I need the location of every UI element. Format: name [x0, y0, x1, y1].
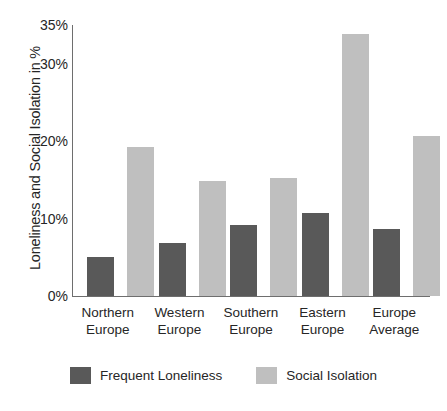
bar-western-europe-social-isolation: [199, 181, 226, 296]
bar-southern-europe-frequent-loneliness: [230, 225, 257, 296]
x-axis-label-europe-average: EuropeAverage: [358, 304, 430, 338]
x-axis-label-line-2: Europe: [287, 321, 359, 338]
bar-eastern-europe-frequent-loneliness: [302, 213, 329, 296]
legend-swatch-icon: [256, 367, 277, 384]
bar-europe-average-social-isolation: [413, 136, 440, 296]
bar-western-europe-frequent-loneliness: [159, 243, 186, 296]
chart-legend: Frequent LonelinessSocial Isolation: [0, 360, 447, 390]
y-axis-tick-0: 0%: [22, 288, 68, 304]
legend-swatch-icon: [70, 367, 91, 384]
bar-europe-average-frequent-loneliness: [373, 229, 400, 296]
y-axis-tick-10: 10%: [22, 211, 68, 227]
bar-chart: Loneliness and Social Isolation in % 0%1…: [0, 0, 447, 411]
x-axis-label-line-2: Europe: [144, 321, 216, 338]
x-axis-label-line-1: Northern: [82, 305, 135, 320]
x-axis-category-labels: NorthernEuropeWesternEuropeSouthernEurop…: [72, 304, 430, 348]
x-axis-label-eastern-europe: EasternEurope: [287, 304, 359, 338]
x-axis-label-line-2: Europe: [215, 321, 287, 338]
x-axis-label-line-2: Average: [358, 321, 430, 338]
x-axis-label-line-2: Europe: [72, 321, 144, 338]
legend-item-social-isolation[interactable]: Social Isolation: [256, 367, 377, 384]
bar-northern-europe-frequent-loneliness: [87, 257, 114, 296]
x-axis-label-line-1: Eastern: [299, 305, 346, 320]
x-axis-label-line-1: Europe: [372, 305, 416, 320]
x-axis-label-line-1: Southern: [224, 305, 279, 320]
bars-layer: [72, 25, 430, 296]
x-axis-label-western-europe: WesternEurope: [144, 304, 216, 338]
x-axis-line: [72, 296, 430, 297]
x-axis-label-northern-europe: NorthernEurope: [72, 304, 144, 338]
bar-northern-europe-social-isolation: [127, 147, 154, 296]
legend-label: Social Isolation: [286, 368, 377, 383]
plot-area: [72, 25, 430, 297]
y-axis-tick-20: 20%: [22, 133, 68, 149]
legend-item-frequent-loneliness[interactable]: Frequent Loneliness: [70, 367, 222, 384]
x-axis-label-line-1: Western: [154, 305, 204, 320]
legend-label: Frequent Loneliness: [100, 368, 222, 383]
y-axis-tick-labels: 0%10%20%30%35%: [20, 25, 68, 297]
bar-southern-europe-social-isolation: [270, 178, 297, 296]
y-axis-tick-30: 30%: [22, 56, 68, 72]
y-axis-tick-35: 35%: [22, 17, 68, 33]
bar-eastern-europe-social-isolation: [342, 34, 369, 296]
x-axis-label-southern-europe: SouthernEurope: [215, 304, 287, 338]
